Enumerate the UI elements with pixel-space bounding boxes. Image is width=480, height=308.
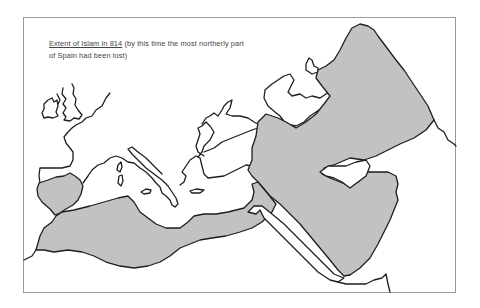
india-coast (434, 120, 456, 146)
northern-peninsula (306, 58, 318, 74)
sardinia (118, 175, 123, 186)
britain-coast (62, 84, 82, 121)
danube-line (204, 128, 258, 152)
ireland (42, 98, 58, 118)
baltic-coast (202, 100, 258, 124)
sicily (141, 189, 151, 194)
corsica (117, 162, 122, 172)
iberia-islamic (37, 173, 83, 215)
caption-title: Extent of Islam in 814 (49, 39, 122, 48)
islamic-east (248, 24, 434, 276)
map-caption: Extent of Islam in 814 (by this time the… (49, 38, 249, 62)
crete (190, 189, 204, 193)
africa-coast (24, 250, 36, 260)
balkans-coast (180, 156, 252, 185)
arabia-coast (338, 274, 390, 292)
